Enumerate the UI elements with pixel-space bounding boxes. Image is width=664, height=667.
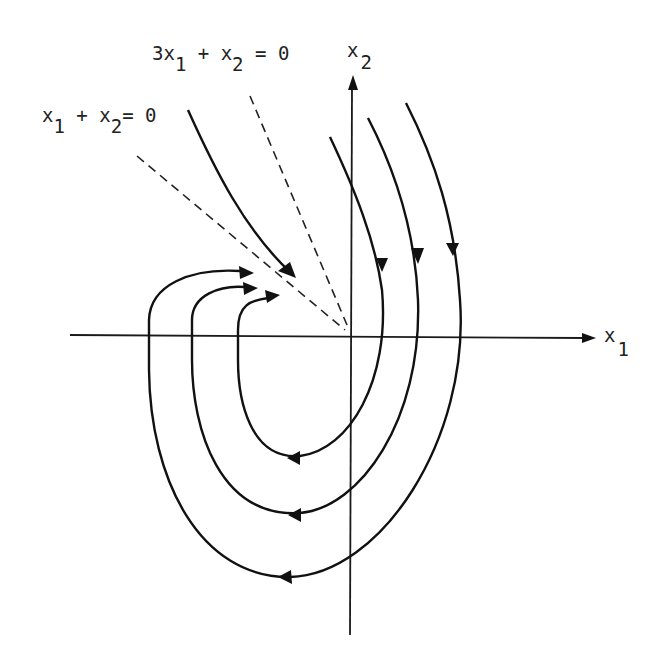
label-x1-plus-x2-eq-0: x1 + x2= 0 [42, 104, 156, 137]
x1-axis-arrowhead [582, 333, 596, 343]
trajectory-outer [149, 103, 461, 577]
x1-axis [70, 335, 585, 338]
x2-axis-label: x2 [347, 39, 372, 73]
trajectory-middle-end-arrowhead [243, 282, 258, 295]
x2-axis-arrowhead [348, 75, 358, 90]
x1-axis-label: x1 [604, 324, 629, 360]
trajectory-outer-down-arrowhead [446, 243, 459, 256]
trajectory-outer-left-arrowhead [278, 570, 292, 584]
trajectory-outer-end-arrowhead [239, 266, 254, 279]
label-3x1-plus-x2-eq-0: 3x1 + x2 = 0 [152, 42, 289, 75]
phase-portrait: x1 x2 3x1 + x2 = 0 x1 + x2= 0 [0, 0, 664, 667]
trajectory-middle [192, 118, 418, 513]
trajectory-inner-end-arrowhead [265, 290, 280, 303]
trajectory-middle-left-arrowhead [288, 508, 301, 522]
trajectory-inner [238, 137, 383, 456]
trajectory-inner-left-arrowhead [287, 451, 300, 465]
trajectory-incoming [188, 110, 290, 272]
line-x1-plus-x2-eq-0 [137, 156, 345, 330]
x2-axis [350, 88, 352, 635]
